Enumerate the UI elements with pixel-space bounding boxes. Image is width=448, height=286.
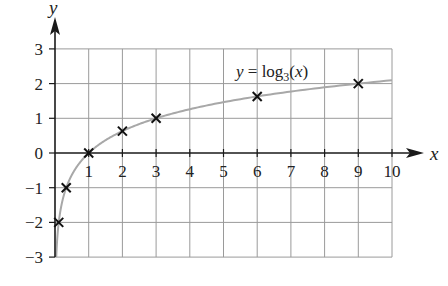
equation-eq: = log xyxy=(244,62,284,81)
x-tick-label: 9 xyxy=(354,162,363,181)
x-tick-label: 2 xyxy=(118,162,127,181)
y-tick-label: −3 xyxy=(25,248,43,267)
axes xyxy=(50,17,424,257)
y-tick-label: 2 xyxy=(35,75,44,94)
equation-label: y = log3(x) xyxy=(234,62,308,84)
x-tick-label: 4 xyxy=(186,162,195,181)
x-tick-label: 7 xyxy=(287,162,296,181)
x-tick-label: 1 xyxy=(84,162,93,181)
equation-close: ) xyxy=(303,62,309,81)
equation-y: y xyxy=(234,62,244,81)
y-tick-label: 0 xyxy=(35,144,44,163)
y-tick-label: −2 xyxy=(25,213,43,232)
x-tick-label: 5 xyxy=(219,162,228,181)
y-tick-label: −1 xyxy=(25,179,43,198)
y-tick-label: 1 xyxy=(35,109,44,128)
log-chart: 123456789103210−1−2−3 x y y = log3(x) xyxy=(0,0,448,286)
x-tick-label: 6 xyxy=(253,162,262,181)
y-axis-label: y xyxy=(47,0,58,18)
equation-annotation: y = log3(x) xyxy=(234,62,308,84)
y-tick-label: 3 xyxy=(35,40,44,59)
x-axis-label: x xyxy=(429,143,439,164)
x-tick-label: 10 xyxy=(384,162,401,181)
x-tick-label: 3 xyxy=(152,162,161,181)
x-tick-label: 8 xyxy=(320,162,329,181)
